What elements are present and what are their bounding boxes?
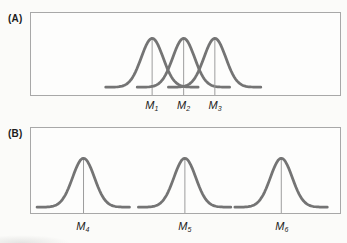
mean-symbol: M	[145, 99, 154, 111]
panel-a-label: (A)	[8, 13, 22, 24]
mean-subscript: 4	[85, 226, 89, 233]
panel-b-mean-labels: M4M5M6	[30, 220, 341, 235]
mean-symbol: M	[76, 220, 85, 232]
mean-label-M4: M4	[76, 220, 89, 232]
mean-label-M5: M5	[178, 220, 191, 232]
panel-b-label: (B)	[8, 128, 22, 139]
mean-symbol: M	[275, 220, 284, 232]
mean-label-M3: M3	[208, 99, 221, 111]
mean-subscript: 6	[285, 226, 289, 233]
panel-b-distribution-plot	[31, 128, 340, 213]
panel-a-box	[30, 12, 341, 96]
mean-label-M6: M6	[275, 220, 288, 232]
mean-symbol: M	[178, 220, 187, 232]
mean-label-M1: M1	[145, 99, 158, 111]
mean-symbol: M	[177, 99, 186, 111]
mean-symbol: M	[208, 99, 217, 111]
mean-subscript: 3	[218, 105, 222, 112]
mean-subscript: 5	[188, 226, 192, 233]
distributions-figure: (A) M1M2M3 (B) M4M5M6	[0, 0, 347, 243]
mean-subscript: 1	[155, 105, 159, 112]
panel-b-box	[30, 127, 341, 214]
mean-label-M2: M2	[177, 99, 190, 111]
panel-a-distribution-plot	[31, 13, 340, 95]
page-shadow-artifact	[0, 235, 70, 243]
mean-subscript: 2	[186, 105, 190, 112]
panel-a-mean-labels: M1M2M3	[30, 99, 341, 114]
